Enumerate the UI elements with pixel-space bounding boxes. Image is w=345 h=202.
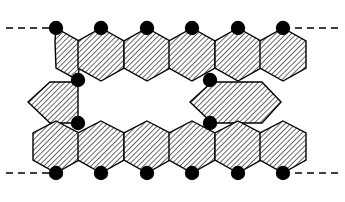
hexagon-top-3 [124, 28, 170, 81]
hexagon-top-4 [169, 28, 215, 81]
bottom-node-4 [185, 166, 199, 180]
top-node-2 [94, 21, 108, 35]
hexagon-bottom-1 [33, 121, 79, 173]
hexagon-chain-diagram [0, 0, 345, 202]
top-node-4 [185, 21, 199, 35]
bottom-node-2 [94, 166, 108, 180]
top-node-3 [140, 21, 154, 35]
hexagon-bottom-3 [124, 121, 170, 173]
bottom-node-6 [276, 166, 290, 180]
top-node-5 [231, 21, 245, 35]
bottom-node-1 [49, 166, 63, 180]
hexagon-top-6 [260, 28, 306, 81]
hexagon-middle-right [190, 82, 281, 123]
top-node-6 [276, 21, 290, 35]
hexagon-layer [28, 28, 306, 173]
bottom-node-3 [140, 166, 154, 180]
left-link-node-lower [71, 116, 85, 130]
hexagon-top-5 [215, 28, 261, 81]
hexagon-top-2 [78, 28, 124, 81]
right-link-node-upper [203, 73, 217, 87]
top-node-1 [49, 21, 63, 35]
hexagon-top-1 [55, 28, 79, 80]
left-link-node-upper [71, 73, 85, 87]
bottom-node-5 [231, 166, 245, 180]
hexagon-bottom-5 [215, 121, 261, 173]
right-link-node-lower [203, 116, 217, 130]
hexagon-bottom-2 [78, 121, 124, 173]
hexagon-bottom-6 [260, 121, 306, 173]
hexagon-middle-left [28, 82, 78, 123]
figure-canvas [0, 0, 345, 202]
